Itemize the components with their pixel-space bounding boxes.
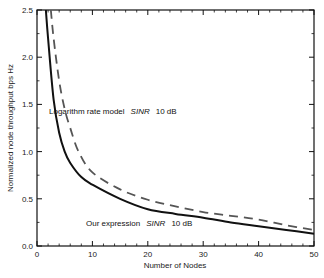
y-tick-label: 1.0: [22, 148, 34, 157]
annotation-our-expression: Our expressionSINR10 dB: [86, 219, 192, 228]
y-tick-label: 0.5: [22, 195, 34, 204]
x-tick-label: 40: [254, 250, 263, 259]
data-curves: [46, 10, 314, 234]
y-tick-label: 0.0: [22, 242, 34, 251]
y-tick-label: 1.5: [22, 100, 34, 109]
y-axis-label: Normalized node throughput bps Hz: [6, 64, 15, 192]
series-log-rate-model: [51, 10, 314, 230]
plot-frame: [37, 10, 314, 246]
x-tick-label: 0: [35, 250, 40, 259]
series-our-expression: [46, 10, 314, 234]
y-tick-label: 2.0: [22, 53, 34, 62]
x-tick-label: 30: [199, 250, 208, 259]
line-chart: 010203040500.00.51.01.52.02.5 Number of …: [0, 0, 324, 278]
x-tick-label: 10: [88, 250, 97, 259]
x-axis-label: Number of Nodes: [144, 261, 207, 270]
annotation-log-model: Logarithm rate modelSINR10 dB: [49, 107, 177, 116]
y-tick-label: 2.5: [22, 6, 34, 15]
plot-area: [37, 10, 314, 246]
x-tick-label: 50: [310, 250, 319, 259]
x-tick-label: 20: [143, 250, 152, 259]
